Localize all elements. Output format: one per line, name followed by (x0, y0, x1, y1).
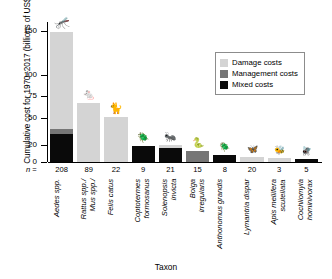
bar-segment-damage-costs (77, 103, 100, 162)
y-tick-label: 75 (0, 92, 37, 100)
bee-silhouette: 🐝 (274, 146, 285, 155)
y-tick-mark (41, 96, 47, 97)
bar-segment-management-costs (50, 129, 73, 134)
y-tick-label: 50 (0, 114, 37, 122)
bar-segment-mixed-costs (159, 148, 182, 162)
legend-swatch (220, 70, 228, 78)
bar-segment-damage-costs (50, 32, 73, 129)
legend-swatch (220, 59, 228, 67)
x-tick-label: Felis catus (107, 179, 116, 215)
cumulative-cost-bar-chart: Cumulative cost for 1970–2017 (billions … (0, 0, 332, 279)
bar-7[interactable] (213, 155, 236, 162)
y-tick-mark (41, 31, 47, 32)
bar-10[interactable] (295, 159, 318, 163)
x-tick-label: Rattus spp./ Mus spp./ (80, 179, 97, 220)
x-axis-line (48, 162, 322, 163)
x-tick-label: Apis mellifera scutellata (270, 179, 287, 225)
legend-label: Mixed costs (232, 81, 273, 89)
bar-segment-management-costs (186, 151, 209, 162)
x-tick-label: Anthonomus grandis (216, 179, 225, 249)
y-tick-mark (41, 118, 47, 119)
x-axis-title: Taxon (0, 262, 332, 272)
bar-segment-mixed-costs (295, 159, 318, 163)
x-tick-label: Coptotermes formosanus (134, 179, 151, 222)
bar-segment-mixed-costs (50, 134, 73, 162)
legend-swatch (220, 81, 228, 89)
sample-size-label: 5 (288, 166, 324, 174)
x-tick-label: Boiga irregularis (189, 179, 206, 212)
bar-2[interactable] (77, 103, 100, 162)
legend: Damage costsManagement costsMixed costs (215, 52, 305, 95)
termite-silhouette: 🪲 (137, 133, 149, 143)
x-tick-label: Cochliomyia hominivorax (297, 179, 314, 220)
legend-item-1[interactable]: Damage costs (220, 57, 298, 68)
rat-silhouette: 🐁 (82, 89, 96, 100)
legend-label: Damage costs (232, 59, 282, 67)
bar-segment-mixed-costs (213, 155, 236, 162)
x-tick-label: Solenopsis invicta (161, 179, 178, 216)
legend-label: Management costs (232, 70, 298, 78)
bar-segment-damage-costs (104, 117, 127, 162)
snake-silhouette: 🐍 (192, 138, 204, 148)
y-tick-label: 100 (0, 71, 37, 79)
fire-ant-silhouette: 🐜 (164, 132, 176, 142)
bar-segment-damage-costs (240, 157, 263, 162)
moth-silhouette: 🦋 (247, 145, 258, 154)
y-tick-mark (41, 162, 47, 163)
x-tick-label: Aedes spp. (53, 179, 62, 217)
bar-3[interactable] (104, 117, 127, 162)
bar-8[interactable] (240, 157, 263, 162)
bar-segment-damage-costs (268, 158, 291, 162)
bar-9[interactable] (268, 158, 291, 162)
sample-size-prefix: n = (26, 166, 37, 174)
cat-silhouette: 🐈 (109, 103, 123, 114)
bar-segment-mixed-costs (132, 146, 155, 162)
legend-item-2[interactable]: Management costs (220, 68, 298, 79)
bar-6[interactable] (186, 151, 209, 162)
bar-1[interactable] (50, 32, 73, 162)
legend-item-3[interactable]: Mixed costs (220, 79, 298, 90)
x-tick-label: Lymantria dispar (243, 179, 252, 235)
bar-4[interactable] (132, 146, 155, 162)
y-tick-mark (41, 75, 47, 76)
boll-weevil-silhouette: 🪲 (219, 143, 230, 152)
y-tick-mark (41, 145, 47, 146)
y-tick-label: 20 (0, 141, 37, 149)
bar-5[interactable] (159, 145, 182, 162)
mosquito-silhouette: 🦟 (54, 16, 70, 29)
y-tick-label: 150 (0, 27, 37, 35)
bar-segment-damage-costs (159, 145, 182, 148)
screwworm-fly-silhouette: 🪰 (301, 147, 312, 156)
